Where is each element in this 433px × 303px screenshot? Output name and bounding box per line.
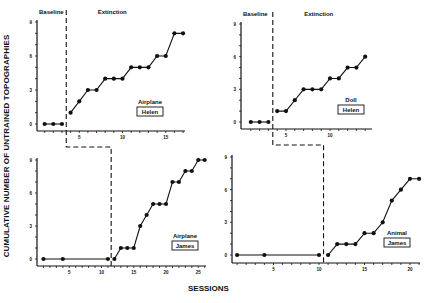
y-tick-label: 9 <box>29 158 32 163</box>
data-point <box>60 122 64 126</box>
y-tick-label: 3 <box>29 224 32 229</box>
y-tick-label: 6 <box>233 55 236 60</box>
data-point <box>249 120 253 124</box>
data-point <box>190 169 194 173</box>
x-tick-label: 15 <box>163 135 169 140</box>
data-point <box>138 65 142 69</box>
x-tick-label: 5 <box>78 135 81 140</box>
y-tick-label: 9 <box>224 155 227 160</box>
data-point <box>151 202 155 206</box>
data-point <box>317 253 321 257</box>
phase-label-extinction: Extinction <box>98 9 127 15</box>
y-tick-label: 0 <box>29 122 32 127</box>
data-point <box>164 202 168 206</box>
data-point <box>326 253 330 257</box>
x-tick-label: 10 <box>99 270 105 275</box>
x-tick-label: 20 <box>407 267 413 272</box>
data-point <box>344 242 348 246</box>
y-tick-label: 6 <box>224 188 227 193</box>
data-point <box>112 77 116 81</box>
multiple-baseline-figure: 036951015AirplaneHelenBaselineExtinction… <box>0 0 433 303</box>
data-point <box>328 76 332 80</box>
data-point <box>125 246 129 250</box>
y-tick-label: 0 <box>233 120 236 125</box>
y-tick-label: 0 <box>224 253 227 258</box>
data-point <box>183 169 187 173</box>
stimulus-label: Doll <box>345 97 357 103</box>
data-point <box>132 246 136 250</box>
data-point <box>362 231 366 235</box>
participant-label: Helen <box>343 107 360 113</box>
data-point <box>145 213 149 217</box>
x-tick-label: 15 <box>362 267 368 272</box>
y-tick-label: 3 <box>233 87 236 92</box>
data-point <box>235 253 239 257</box>
x-tick-label: 25 <box>196 270 202 275</box>
y-tick-label: 3 <box>29 88 32 93</box>
panel-bottom-right: 03695101520AnimalJames <box>224 155 421 272</box>
data-point <box>157 202 161 206</box>
data-point <box>372 231 376 235</box>
x-tick-label: 5 <box>68 270 71 275</box>
y-tick-label: 6 <box>29 54 32 59</box>
panel-bottom-left: 0369510152025AirplaneJames <box>29 158 206 275</box>
data-point <box>112 257 116 261</box>
data-point <box>86 88 90 92</box>
data-point <box>302 87 306 91</box>
x-tick-label: 10 <box>120 135 126 140</box>
data-point <box>346 65 350 69</box>
data-point <box>51 122 55 126</box>
data-point <box>284 109 288 113</box>
data-point <box>196 158 200 162</box>
data-point <box>103 77 107 81</box>
panel-top-left: 036951015AirplaneHelenBaselineExtinction <box>29 9 185 140</box>
data-point <box>353 242 357 246</box>
data-point <box>417 177 421 181</box>
data-point <box>129 65 133 69</box>
x-tick-label: 5 <box>272 267 275 272</box>
data-point <box>61 257 65 261</box>
y-tick-label: 3 <box>224 220 227 225</box>
data-point <box>146 65 150 69</box>
data-point <box>275 109 279 113</box>
data-point <box>77 99 81 103</box>
data-point <box>399 188 403 192</box>
stimulus-label: Animal <box>387 230 407 236</box>
y-tick-label: 9 <box>29 20 32 25</box>
data-point <box>94 88 98 92</box>
data-point <box>177 180 181 184</box>
data-point <box>266 120 270 124</box>
data-point <box>354 65 358 69</box>
data-point <box>381 220 385 224</box>
data-point <box>138 224 142 228</box>
data-point <box>293 98 297 102</box>
data-point <box>170 180 174 184</box>
y-tick-label: 9 <box>233 22 236 27</box>
participant-label: Helen <box>142 109 159 115</box>
stimulus-label: Airplane <box>138 99 163 105</box>
phase-label-baseline: Baseline <box>243 11 268 17</box>
data-point <box>390 198 394 202</box>
data-point <box>69 111 73 115</box>
phase-change-line <box>273 12 324 263</box>
data-point <box>203 158 207 162</box>
y-tick-label: 0 <box>29 257 32 262</box>
data-point <box>43 122 47 126</box>
data-point <box>408 177 412 181</box>
data-point <box>172 31 176 35</box>
y-axis-title: CUMULATIVE NUMBER OF UNTRAINED TOPOGRAPH… <box>2 26 14 266</box>
participant-label: James <box>176 243 195 249</box>
x-tick-label: 10 <box>327 133 333 138</box>
participant-label: James <box>388 240 407 246</box>
data-point <box>319 87 323 91</box>
x-tick-label: 5 <box>285 133 288 138</box>
panel-top-right: 0369510DollHelenBaselineExtinction <box>233 11 372 138</box>
phase-label-baseline: Baseline <box>39 9 64 15</box>
phase-change-line <box>66 10 111 266</box>
data-point <box>310 87 314 91</box>
x-axis-title: SESSIONS <box>188 284 229 293</box>
data-line <box>71 33 183 112</box>
data-point <box>41 257 45 261</box>
x-tick-label: 20 <box>163 270 169 275</box>
data-point <box>262 253 266 257</box>
